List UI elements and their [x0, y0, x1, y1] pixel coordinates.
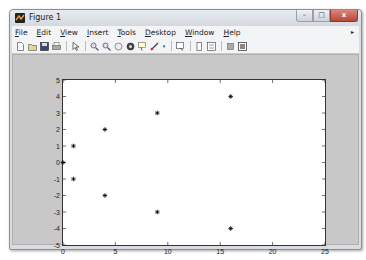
toolbar-separator — [221, 41, 222, 51]
data-point — [103, 193, 108, 198]
rotate-3d-icon — [126, 42, 135, 51]
maximize-icon: □ — [314, 10, 329, 20]
save-button[interactable] — [40, 42, 49, 51]
menu-tools[interactable]: Tools — [117, 27, 135, 39]
data-cursor-button[interactable] — [138, 42, 147, 51]
y-tick-label: -3 — [54, 209, 60, 216]
y-tick-label: 3 — [56, 110, 60, 117]
matlab-icon — [15, 13, 25, 23]
minimize-icon: – — [297, 10, 312, 20]
toolbar-separator — [66, 41, 67, 51]
maximize-button[interactable]: □ — [313, 10, 330, 22]
close-button[interactable]: x — [330, 10, 358, 22]
pointer-icon — [71, 42, 80, 51]
y-tick-label: -1 — [54, 176, 60, 183]
menu-file[interactable]: File — [15, 27, 28, 39]
window-controls: – □ x — [296, 10, 358, 23]
menu-window[interactable]: Window — [185, 27, 215, 39]
y-tick-label: -4 — [54, 225, 60, 232]
rotate-3d-button[interactable] — [126, 42, 135, 51]
x-tick-label: 5 — [113, 248, 117, 255]
new-figure-icon — [16, 42, 25, 51]
data-cursor-icon — [138, 42, 147, 51]
print-button[interactable] — [52, 42, 61, 51]
toolbar-separator — [85, 41, 86, 51]
menu-edit[interactable]: Edit — [37, 27, 52, 39]
y-tick-label: 5 — [56, 77, 60, 84]
new-figure-button[interactable] — [16, 42, 25, 51]
open-file-button[interactable] — [28, 42, 37, 51]
pan-button[interactable] — [114, 42, 123, 51]
legend-icon — [207, 42, 216, 51]
figure-canvas: 0510152025-5-4-3-2-1012345 — [12, 54, 359, 245]
hide-plot-tools-button[interactable] — [226, 42, 235, 51]
toolbar-separator — [190, 41, 191, 51]
data-point — [103, 127, 108, 132]
zoom-in-button[interactable] — [90, 42, 99, 51]
hide-plot-tools-icon — [226, 42, 235, 51]
print-icon — [52, 42, 61, 51]
show-plot-tools-icon — [238, 42, 247, 51]
edit-plot-button[interactable] — [71, 42, 80, 51]
x-tick-label: 25 — [321, 248, 329, 255]
menu-view[interactable]: View — [60, 27, 78, 39]
insert-colorbar-button[interactable] — [195, 42, 204, 51]
data-point — [228, 226, 233, 231]
show-plot-tools-button[interactable] — [238, 42, 247, 51]
save-icon — [40, 42, 49, 51]
zoom-out-icon — [102, 42, 111, 51]
brush-dropdown[interactable]: ▾ — [162, 42, 166, 51]
y-tick-label: 0 — [56, 159, 60, 166]
data-point — [71, 144, 76, 149]
brush-button[interactable] — [150, 42, 159, 51]
insert-legend-button[interactable] — [207, 42, 216, 51]
data-point — [61, 160, 66, 165]
x-tick-label: 20 — [269, 248, 277, 255]
title-bar[interactable]: Figure 1 – □ x — [10, 10, 361, 26]
plot-axes[interactable]: 0510152025-5-4-3-2-1012345 — [62, 79, 326, 246]
figure-toolbar: ▾ — [12, 39, 359, 54]
x-tick-label: 0 — [61, 248, 65, 255]
zoom-out-button[interactable] — [102, 42, 111, 51]
menu-insert[interactable]: Insert — [87, 27, 109, 39]
menu-help[interactable]: Help — [223, 27, 240, 39]
y-tick-label: -2 — [54, 192, 60, 199]
y-tick-label: 1 — [56, 143, 60, 150]
pan-icon — [114, 42, 123, 51]
menu-desktop[interactable]: Desktop — [145, 27, 176, 39]
figure-window: Figure 1 – □ x FileEditViewInsertToolsDe… — [9, 9, 362, 250]
x-tick-label: 10 — [164, 248, 172, 255]
toolbar-separator — [171, 41, 172, 51]
scatter-plot: 0510152025-5-4-3-2-1012345 — [63, 80, 325, 245]
zoom-in-icon — [90, 42, 99, 51]
menu-bar: FileEditViewInsertToolsDesktopWindowHelp… — [12, 26, 359, 39]
y-tick-label: -5 — [54, 242, 60, 249]
chevron-down-icon: ▾ — [163, 43, 166, 49]
open-file-icon — [28, 42, 37, 51]
brush-icon — [150, 42, 159, 51]
link-plot-icon — [176, 42, 185, 51]
data-point — [71, 177, 76, 182]
colorbar-icon — [195, 42, 204, 51]
data-point — [155, 210, 160, 215]
link-plot-button[interactable] — [176, 42, 185, 51]
window-title: Figure 1 — [29, 12, 61, 24]
y-tick-label: 2 — [56, 126, 60, 133]
data-point — [228, 94, 233, 99]
x-tick-label: 15 — [216, 248, 224, 255]
close-icon: x — [331, 10, 357, 20]
data-point — [155, 111, 160, 116]
menu-overflow-icon[interactable]: ▸ — [351, 28, 354, 35]
y-tick-label: 4 — [56, 93, 60, 100]
minimize-button[interactable]: – — [296, 10, 313, 22]
